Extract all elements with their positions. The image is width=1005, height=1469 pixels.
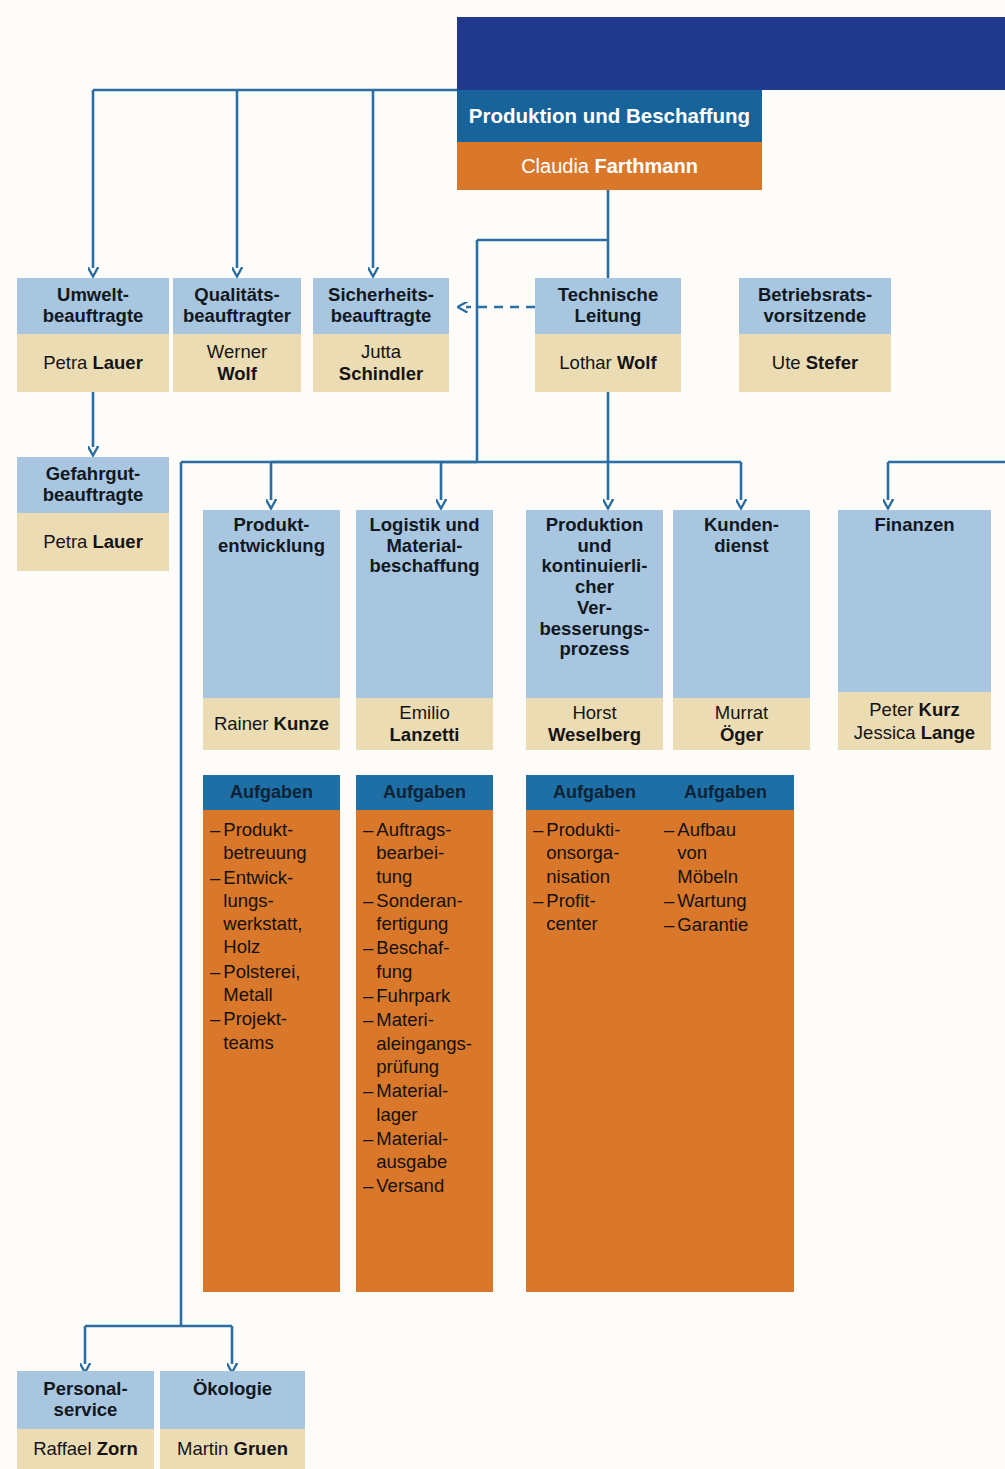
task-item: –Material-lager [363, 1079, 486, 1126]
unit-title-line1: Personal- [43, 1378, 127, 1399]
department-title: Produktion und kontinuierli- cher Ver- b… [526, 510, 663, 698]
department-produktentwicklung[interactable]: Produkt-entwicklung Rainer Kunze [203, 510, 340, 750]
department-title-line: prozess [560, 638, 630, 659]
department-title-line: Produkt- [233, 514, 309, 535]
officer-title-line2: vorsitzende [764, 305, 867, 326]
bullet-dash: – [363, 889, 373, 936]
bullet-dash: – [363, 984, 373, 1007]
department-title-line: besserungs- [539, 618, 649, 639]
department-logistik-und-materialbeschaffung[interactable]: Logistik undMaterial-beschaffung Emilio … [356, 510, 493, 750]
officer-umweltbeauftragte[interactable]: Umwelt-beauftragte Petra Lauer [17, 278, 169, 392]
bullet-dash: – [210, 960, 220, 1007]
root-person: Claudia Farthmann [457, 142, 762, 190]
department-produktion-kvp[interactable]: Produktion und kontinuierli- cher Ver- b… [526, 510, 663, 750]
bullet-dash: – [664, 818, 674, 888]
department-person-last: Lanzetti [390, 724, 460, 746]
department-title: Produkt-entwicklung [203, 510, 340, 698]
task-line: Profit- [546, 890, 595, 911]
tasks-header-label: Aufgaben [684, 782, 767, 803]
unit-oekologie[interactable]: Ökologie Martin Gruen [160, 1371, 305, 1469]
department-person-last: Kunze [274, 713, 330, 734]
officer-title: Sicherheits-beauftragte [313, 278, 449, 334]
officer-person: Petra Lauer [17, 334, 169, 392]
task-line: fung [376, 961, 412, 982]
unit-person-last: Gruen [234, 1438, 288, 1459]
root-title: Produktion und Beschaffung [457, 90, 762, 142]
tasks-header-label: Aufgaben [553, 782, 636, 803]
task-line: werkstatt, [223, 913, 302, 934]
officer-person: Lothar Wolf [535, 334, 681, 392]
bullet-dash: – [363, 936, 373, 983]
task-item: –Garantie [664, 913, 787, 936]
officer-person-first: Lothar [559, 352, 617, 373]
department-title: Kunden-dienst [673, 510, 810, 698]
officer-person: Ute Stefer [739, 334, 891, 392]
bullet-dash: – [533, 818, 543, 888]
department-title-line: und [578, 535, 612, 556]
task-line: Sonderan- [376, 890, 462, 911]
task-item: –Produkti-onsorga-nisation [533, 818, 656, 888]
department-kundendienst[interactable]: Kunden-dienst Murrat Öger [673, 510, 810, 750]
unit-person-first: Raffael [33, 1438, 96, 1459]
officer-title: Umwelt-beauftragte [17, 278, 169, 334]
task-line: Produkt- [223, 819, 293, 840]
task-line: Polsterei, [223, 961, 300, 982]
officer-qualitaetsbeauftragter[interactable]: Qualitäts-beauftragter Werner Wolf [173, 278, 301, 392]
department-person: Horst Weselberg [526, 698, 663, 750]
task-line: lungs- [223, 890, 273, 911]
task-item: –Projekt-teams [210, 1007, 333, 1054]
task-line: Entwick- [223, 867, 293, 888]
gefahrgut-person: Petra Lauer [17, 513, 169, 571]
unit-title-line2: service [54, 1399, 118, 1420]
officer-person-last: Stefer [806, 352, 858, 373]
bullet-dash: – [363, 1127, 373, 1174]
task-item: –Auftrags-bearbei-tung [363, 818, 486, 888]
officer-gefahrgutbeauftragte[interactable]: Gefahrgut-beauftragte Petra Lauer [17, 457, 169, 571]
officer-person-first: Jutta [361, 341, 401, 363]
officer-person-first: Werner [207, 341, 267, 363]
department-person-first: Horst [572, 702, 616, 724]
tasks-header-produktentwicklung: Aufgaben [203, 775, 340, 810]
task-line: Auftrags- [376, 819, 451, 840]
task-line: Produkti- [546, 819, 620, 840]
gefahrgut-person-first: Petra [43, 531, 92, 552]
tasks-header-label: Aufgaben [383, 782, 466, 803]
officer-title-line1: Betriebsrats- [758, 284, 872, 305]
unit-personalservice[interactable]: Personal-service Raffael Zorn [17, 1371, 154, 1469]
task-line: nisation [546, 866, 610, 887]
officer-title-line2: Leitung [575, 305, 642, 326]
officer-title-line1: Umwelt- [57, 284, 129, 305]
officer-title-line2: beauftragte [43, 305, 144, 326]
department-title-line: Produktion [546, 514, 644, 535]
bullet-dash: – [210, 866, 220, 959]
task-line: Material- [376, 1128, 448, 1149]
task-line: tung [376, 866, 412, 887]
bullet-dash: – [664, 889, 674, 912]
department-finanzen[interactable]: Finanzen Peter Kurz Jessica Lange [838, 510, 991, 750]
officer-betriebsratsvorsitzende[interactable]: Betriebsrats-vorsitzende Ute Stefer [739, 278, 891, 392]
officer-technische-leitung[interactable]: TechnischeLeitung Lothar Wolf [535, 278, 681, 392]
task-line: lager [376, 1104, 417, 1125]
tasks-list-kundendienst: –AufbauvonMöbeln –Wartung –Garantie [657, 810, 794, 1292]
officer-person-first: Ute [772, 352, 806, 373]
bullet-dash: – [363, 1174, 373, 1197]
officer-title-line1: Technische [558, 284, 658, 305]
department-person-last: Öger [720, 724, 763, 746]
task-item: –Profit-center [533, 889, 656, 936]
bullet-dash: – [363, 818, 373, 888]
tasks-header-produktion-kvp: Aufgaben [526, 775, 663, 810]
department-title-line: Finanzen [874, 515, 954, 536]
task-item: –Versand [363, 1174, 486, 1197]
task-line: prüfung [376, 1056, 439, 1077]
department-person: Emilio Lanzetti [356, 698, 493, 750]
task-item: –Wartung [664, 889, 787, 912]
tasks-list-produktentwicklung: –Produkt-betreuung –Entwick-lungs-werkst… [203, 810, 340, 1292]
bullet-dash: – [210, 818, 220, 865]
officer-sicherheitsbeauftragte[interactable]: Sicherheits-beauftragte Jutta Schindler [313, 278, 449, 392]
officer-title-line1: Sicherheits- [328, 284, 434, 305]
task-line: Garantie [677, 914, 748, 935]
gefahrgut-title-line1: Gefahrgut- [46, 463, 141, 484]
task-item: –Beschaf-fung [363, 936, 486, 983]
gefahrgut-title: Gefahrgut-beauftragte [17, 457, 169, 513]
task-line: Materi- [376, 1009, 434, 1030]
